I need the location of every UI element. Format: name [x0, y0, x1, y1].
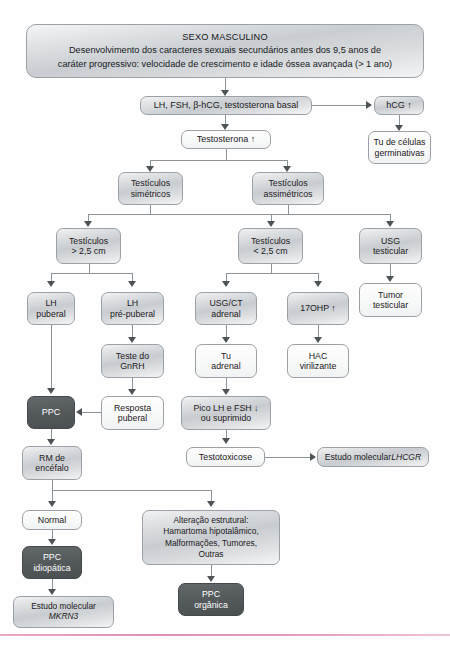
- node-labs-label: LH, FSH, β-hCG, testosterona basal: [154, 100, 299, 111]
- node-hac-line-1: HAC: [309, 351, 328, 361]
- banner-line-2: Desenvolvimento dos caracteres sexuais s…: [69, 44, 381, 57]
- node-testis-symmetric-line-1: Testículos: [131, 178, 170, 188]
- arrowhead-usg-testicular: [386, 221, 394, 227]
- node-ppc-organica: PPC orgânica: [178, 583, 244, 616]
- arrowhead-lh-prepuberal: [128, 281, 136, 287]
- connector-sym-bus: [88, 214, 271, 215]
- arrowhead-alteracao: [207, 501, 215, 507]
- node-estudo-lhcgr-gene: LHCGR: [391, 452, 421, 462]
- node-lh-pre-puberal-line-2: pré-puberal: [110, 309, 155, 319]
- node-usg-testicular: USG testicular: [359, 228, 422, 264]
- node-alteracao-line-2: Hamartoma hipotalâmico,: [163, 526, 258, 537]
- connector-testosterona-bus: [150, 160, 287, 161]
- arrowhead-hac: [314, 337, 322, 343]
- bottom-decorative-rule: [0, 634, 450, 636]
- node-testis-gt-line-1: Testículos: [69, 236, 108, 246]
- node-rm-encefalo-line-2: encéfalo: [35, 463, 68, 473]
- connector-testotoxicose-to-lhcgr: [265, 457, 312, 458]
- banner-line-3: caráter progressivo: velocidade de cresc…: [58, 58, 392, 71]
- arrowhead-tumor-testicular: [386, 276, 394, 282]
- arrowhead-ppc-from-resposta: [76, 408, 82, 416]
- node-testis-symmetric: Testículos simétricos: [118, 172, 183, 205]
- node-alteracao-line-3: Malformações, Tumores,: [165, 538, 257, 549]
- node-pico-line-2: ou suprimido: [201, 413, 251, 423]
- node-testis-greater-2-5cm: Testículos > 2,5 cm: [56, 228, 121, 264]
- node-testis-asymmetric: Testículos assimétricos: [252, 172, 324, 205]
- node-alteracao-line-4: Outras: [198, 549, 223, 560]
- node-resposta-puberal-line-1: Resposta: [114, 403, 151, 413]
- node-testis-symmetric-line-2: simétricos: [131, 189, 171, 199]
- node-estudo-molecular-mkrn3: Estudo molecular MKRN3: [13, 596, 114, 628]
- node-ppc-label: PPC: [42, 407, 61, 418]
- arrowhead-pico: [222, 389, 230, 395]
- node-hcg-label: hCG ↑: [386, 100, 412, 111]
- node-labs: LH, FSH, β-hCG, testosterona basal: [140, 96, 312, 115]
- arrowhead-teste-gnrh: [128, 337, 136, 343]
- connector-testosterona-stem: [226, 149, 227, 160]
- arrowhead-normal: [48, 501, 56, 507]
- arrowhead-rm-encefalo: [47, 439, 55, 445]
- node-germinal-tumor-line-1: Tu de células: [374, 137, 426, 147]
- node-testis-lt-line-2: < 2,5 cm: [254, 246, 288, 256]
- node-ppc-idiopatica-line-1: PPC: [43, 552, 61, 562]
- node-usg-testicular-line-2: testicular: [373, 246, 408, 256]
- node-resposta-puberal-line-2: puberal: [118, 413, 147, 423]
- header-banner: SEXO MASCULINO Desenvolvimento dos carac…: [26, 24, 424, 78]
- node-testis-asymmetric-line-2: assimétricos: [264, 189, 313, 199]
- node-teste-gnrh: Teste do GnRH: [101, 344, 164, 378]
- node-tu-adrenal-line-1: Tu: [221, 351, 231, 361]
- node-lh-puberal-line-1: LH: [45, 298, 56, 308]
- connector-sym-stem: [150, 205, 151, 214]
- node-alteracao-estrutural: Alteração estrutural: Hamartoma hipotalâ…: [142, 510, 280, 565]
- arrowhead-ppc-idiopatica: [48, 539, 56, 545]
- connector-gt-stem: [89, 264, 90, 273]
- connector-asym-bus: [271, 214, 391, 215]
- arrowhead-testis-gt: [84, 221, 92, 227]
- node-testis-gt-line-2: > 2,5 cm: [72, 246, 106, 256]
- banner-title: SEXO MASCULINO: [182, 31, 268, 44]
- connector-lt-stem: [271, 264, 272, 273]
- node-hac-virilizante: HAC virilizante: [287, 344, 349, 378]
- arrowhead-tu-adrenal: [222, 337, 230, 343]
- node-normal-label: Normal: [38, 515, 66, 525]
- node-ppc-idiopatica: PPC idiopática: [22, 546, 82, 579]
- node-17ohp-label: 17OHP ↑: [300, 303, 336, 313]
- arrowhead-usg-ct-adrenal: [222, 281, 230, 287]
- node-ppc-organica-line-1: PPC: [202, 589, 220, 599]
- node-lh-puberal: LH puberal: [27, 292, 75, 325]
- node-hac-line-2: virilizante: [300, 361, 337, 371]
- node-lh-pre-puberal: LH pré-puberal: [101, 292, 164, 325]
- node-usg-ct-adrenal-line-2: adrenal: [211, 309, 240, 319]
- connector-gt-bus: [51, 273, 133, 274]
- arrowhead-lh-puberal: [47, 281, 55, 287]
- connector-rm-stem: [52, 480, 53, 490]
- node-ppc-organica-line-2: orgânica: [194, 600, 228, 610]
- node-lh-puberal-line-2: puberal: [36, 309, 65, 319]
- node-testotoxicose: Testotoxicose: [186, 447, 265, 467]
- node-hcg-elevated: hCG ↑: [374, 96, 424, 115]
- node-usg-ct-adrenal-line-1: USG/CT: [209, 298, 242, 308]
- node-germinal-cell-tumor: Tu de células germinativas: [368, 131, 431, 164]
- flowchart-canvas: SEXO MASCULINO Desenvolvimento dos carac…: [0, 0, 450, 645]
- node-resposta-puberal: Resposta puberal: [101, 396, 164, 430]
- node-rm-encefalo: RM de encéfalo: [22, 446, 82, 480]
- node-normal: Normal: [22, 510, 82, 530]
- node-estudo-mkrn3-gene: MKRN3: [49, 612, 78, 622]
- connector-resposta-to-ppc: [82, 412, 101, 413]
- node-teste-gnrh-line-2: GnRH: [120, 361, 144, 371]
- node-tumor-testicular-line-1: Tumor: [378, 290, 403, 300]
- arrowhead-testotoxicose: [222, 438, 230, 444]
- node-tu-adrenal-line-2: adrenal: [211, 361, 240, 371]
- connector-rm-bus: [52, 490, 212, 491]
- node-tu-adrenal: Tu adrenal: [195, 344, 257, 378]
- arrowhead-17ohp: [314, 281, 322, 287]
- node-rm-encefalo-line-1: RM de: [39, 453, 65, 463]
- node-ppc-idiopatica-line-2: idiopática: [33, 563, 70, 573]
- connector-asym-stem: [288, 205, 289, 214]
- node-tumor-testicular-line-2: testicular: [373, 300, 408, 310]
- arrowhead-testis-lt: [267, 221, 275, 227]
- node-pico-lh-fsh: Pico LH e FSH ↓ ou suprimido: [181, 396, 271, 430]
- node-usg-testicular-line-1: USG: [381, 236, 400, 246]
- arrowhead-estudo-lhcgr: [310, 453, 316, 461]
- node-tumor-testicular: Tumor testicular: [359, 283, 422, 317]
